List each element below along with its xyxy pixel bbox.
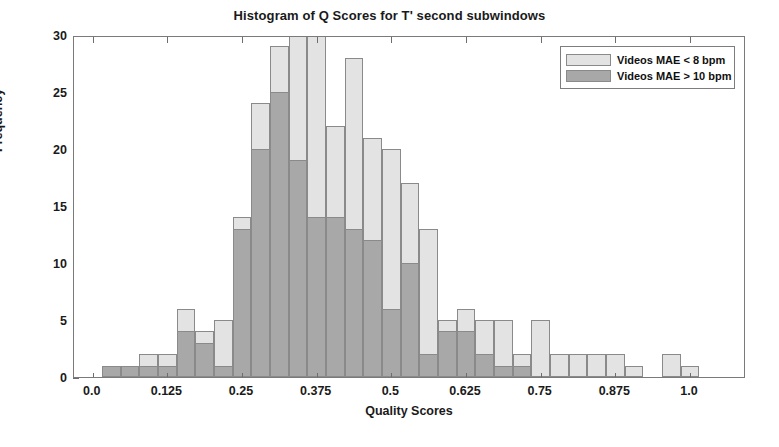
histogram-bar [214, 366, 233, 377]
chart-title: Histogram of Q Scores for T' second subw… [0, 8, 779, 23]
y-axis-tick-label: 10 [21, 257, 67, 271]
x-axis-tick-label: 0.125 [151, 384, 182, 398]
histogram-bar [139, 366, 158, 377]
x-axis-tick-mark-top [391, 37, 392, 43]
legend-entry: Videos MAE > 10 bpm [566, 68, 729, 83]
x-axis-tick-mark-top [690, 37, 691, 43]
x-axis-tick-label: 0.0 [83, 384, 100, 398]
histogram-bar [569, 354, 588, 377]
x-axis-tick-mark [391, 373, 392, 378]
histogram-figure: Histogram of Q Scores for T' second subw… [0, 0, 779, 447]
y-axis-tick-label: 15 [21, 200, 67, 214]
x-axis-tick-label: 1.0 [680, 384, 697, 398]
histogram-bar [494, 366, 513, 377]
y-axis-tick-label: 20 [21, 143, 67, 157]
legend-label: Videos MAE > 10 bpm [617, 70, 731, 82]
chart-legend: Videos MAE < 8 bpmVideos MAE > 10 bpm [560, 46, 735, 89]
x-axis-tick-mark [317, 373, 318, 378]
histogram-bar [326, 217, 345, 377]
histogram-bar [121, 366, 140, 377]
histogram-bar [195, 343, 214, 377]
histogram-bar [102, 366, 121, 377]
legend-entry: Videos MAE < 8 bpm [566, 52, 729, 67]
histogram-bar [233, 229, 252, 377]
x-axis-tick-mark [242, 373, 243, 378]
histogram-bar [438, 331, 457, 377]
histogram-bar [289, 160, 308, 377]
x-axis-tick-mark-top [615, 37, 616, 43]
x-axis-tick-mark-top [167, 37, 168, 43]
x-axis-tick-mark [615, 373, 616, 378]
legend-swatch [566, 54, 611, 66]
legend-label: Videos MAE < 8 bpm [617, 54, 725, 66]
x-axis-tick-label: 0.75 [527, 384, 551, 398]
x-axis-tick-mark [690, 373, 691, 378]
histogram-bar [457, 331, 476, 377]
legend-swatch [566, 70, 611, 82]
histogram-bar [270, 92, 289, 377]
x-axis-tick-mark-top [541, 37, 542, 43]
y-axis-tick-mark [73, 378, 79, 379]
histogram-bar [475, 354, 494, 377]
histogram-bar [662, 354, 681, 377]
histogram-bar [177, 331, 196, 377]
x-axis-tick-label: 0.25 [229, 384, 253, 398]
y-axis-tick-label: 0 [21, 371, 67, 385]
x-axis-tick-label: 0.625 [449, 384, 480, 398]
histogram-bar [550, 354, 569, 377]
histogram-bar [531, 320, 550, 377]
histogram-bar [587, 354, 606, 377]
y-axis-tick-label: 5 [21, 314, 67, 328]
histogram-bar [625, 366, 644, 377]
x-axis-tick-label: 0.875 [599, 384, 630, 398]
x-axis-tick-mark-top [466, 37, 467, 43]
x-axis-title: Quality Scores [73, 404, 745, 418]
x-axis-tick-mark-top [242, 37, 243, 43]
x-axis-tick-mark [93, 373, 94, 378]
histogram-bar [382, 309, 401, 377]
y-axis-tick-label: 25 [21, 86, 67, 100]
x-axis-tick-mark [466, 373, 467, 378]
histogram-bar [345, 229, 364, 377]
x-axis-tick-mark [167, 373, 168, 378]
x-axis-tick-mark-top [93, 37, 94, 43]
histogram-bar [251, 149, 270, 377]
y-axis-tick-label: 30 [21, 29, 67, 43]
x-axis-tick-label: 0.5 [382, 384, 399, 398]
histogram-bar [307, 217, 326, 377]
histogram-bar [419, 354, 438, 377]
y-axis-title: Frequency [0, 89, 5, 152]
histogram-bar [513, 366, 532, 377]
x-axis-tick-label: 0.375 [300, 384, 331, 398]
histogram-bar [401, 263, 420, 377]
x-axis-tick-mark-top [317, 37, 318, 43]
histogram-bar [363, 240, 382, 377]
x-axis-tick-mark [541, 373, 542, 378]
